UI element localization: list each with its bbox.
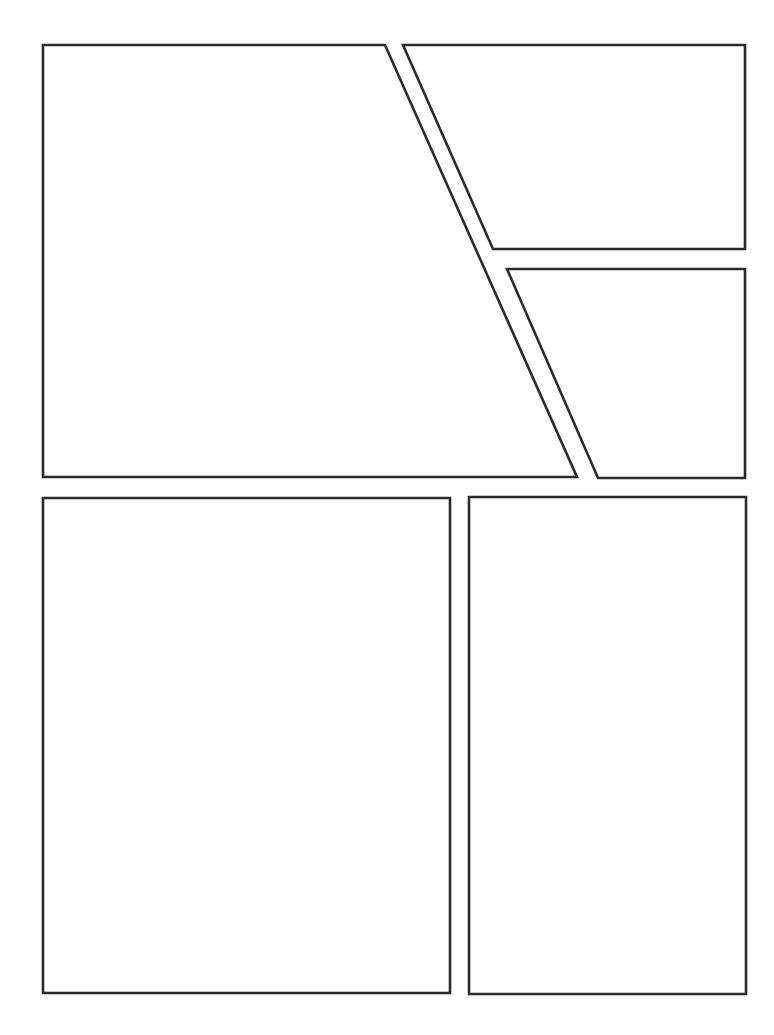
comic-page-layout bbox=[0, 0, 774, 1035]
panel-5-bottom-right bbox=[469, 497, 746, 994]
panel-4-bottom-left bbox=[43, 498, 450, 993]
